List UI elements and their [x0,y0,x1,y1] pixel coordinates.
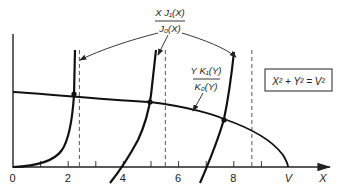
lhs-pointer-arrow-1 [80,33,158,60]
lhs-pointer-arrow-2 [158,35,168,55]
intersection-point-3 [221,117,226,122]
x-tick-label: 8 [230,172,236,184]
intersection-point-2 [147,99,152,104]
x-tick-label: 6 [175,172,181,184]
constraint-equation: X² + Y² = V² [271,76,325,87]
x-tick-label: 0 [9,172,15,184]
x-axis-ticks [41,161,262,167]
x-axis-label: X [318,172,327,184]
rhs-label-numerator: Y K₁(Y) [191,65,222,76]
lhs-label-numerator: X J₁(X) [154,7,184,18]
lhs-branch-2 [110,50,156,183]
x-tick-label: V [285,172,294,184]
x-tick-label: 4 [120,172,126,184]
rhs-label-denominator: K₀(Y) [194,81,217,92]
diagram: 02468V X J₁(X) J₀(X) Y K₁(Y) K₀(Y) X² + … [0,0,339,189]
lhs-label-denominator: J₀(X) [158,23,180,34]
x-axis-tick-labels: 02468V [9,172,293,184]
x-tick-label: 2 [65,172,71,184]
rhs-pointer-arrow [193,93,203,111]
intersection-point-1 [71,91,76,96]
lhs-pointer-arrow-3 [182,33,236,57]
lhs-branch-1 [13,50,75,167]
